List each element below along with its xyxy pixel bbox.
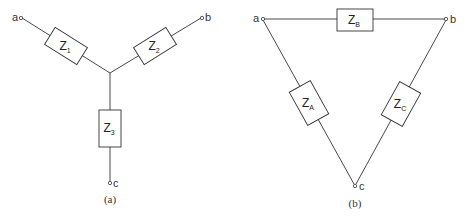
terminal-a-label: a bbox=[12, 11, 19, 23]
impedance-za: ZA bbox=[289, 81, 328, 126]
z3-subscript: 3 bbox=[111, 129, 115, 136]
caption-a: (a) bbox=[104, 193, 117, 206]
za-label: Z bbox=[302, 96, 309, 110]
terminal-c-label: c bbox=[359, 180, 365, 192]
terminal-a bbox=[19, 16, 22, 19]
z3-label: Z bbox=[103, 121, 110, 135]
impedance-zc: ZC bbox=[381, 82, 420, 127]
zb-subscript: B bbox=[355, 21, 360, 28]
caption-b: (b) bbox=[349, 197, 362, 210]
star-network: Z1 Z2 Z3 a b c (a) bbox=[12, 11, 211, 206]
zb-label: Z bbox=[348, 13, 355, 27]
impedance-z2: Z2 bbox=[134, 27, 177, 64]
terminal-a-label: a bbox=[253, 12, 260, 24]
terminal-c bbox=[353, 184, 356, 187]
impedance-z1: Z1 bbox=[44, 27, 87, 64]
terminal-c bbox=[108, 181, 111, 184]
zc-label: Z bbox=[394, 97, 401, 111]
z2-label: Z bbox=[148, 39, 155, 53]
terminal-a bbox=[261, 17, 264, 20]
z2-subscript: 2 bbox=[156, 47, 160, 54]
terminal-b-label: b bbox=[205, 11, 211, 23]
delta-network: ZB ZA ZC a b c (b) bbox=[253, 9, 456, 210]
circuit-diagrams: Z1 Z2 Z3 a b c (a) bbox=[0, 0, 465, 217]
terminal-b-label: b bbox=[450, 13, 456, 25]
terminal-b bbox=[444, 17, 447, 20]
terminal-c-label: c bbox=[113, 177, 119, 189]
terminal-b bbox=[200, 16, 203, 19]
z1-label: Z bbox=[59, 39, 66, 53]
za-subscript: A bbox=[309, 104, 314, 111]
impedance-z3: Z3 bbox=[99, 110, 121, 147]
impedance-zb: ZB bbox=[337, 9, 373, 31]
zc-subscript: C bbox=[401, 105, 406, 112]
z1-subscript: 1 bbox=[67, 47, 71, 54]
